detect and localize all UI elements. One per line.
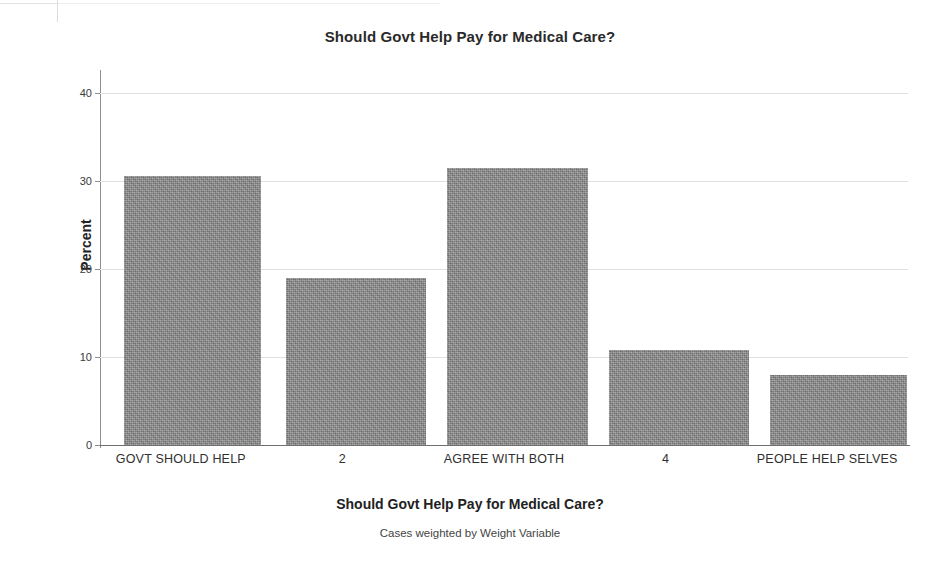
y-tick-mark-40: [95, 93, 100, 94]
y-tick-mark-30: [95, 181, 100, 182]
bar: [609, 350, 750, 445]
bar-chart: Should Govt Help Pay for Medical Care? P…: [0, 0, 940, 563]
x-axis-label: Should Govt Help Pay for Medical Care?: [0, 496, 940, 512]
y-tick-label-0: 0: [52, 439, 92, 451]
chart-footnote: Cases weighted by Weight Variable: [0, 527, 940, 539]
plot-area: Percent 010203040: [100, 75, 908, 445]
x-tick-label: AGREE WITH BOTH: [423, 452, 585, 467]
gridline-40: [100, 93, 908, 94]
y-tick-mark-20: [95, 269, 100, 270]
y-tick-mark-0: [95, 445, 100, 446]
x-tick-label: 2: [262, 452, 424, 467]
bar: [286, 278, 427, 445]
bar: [770, 375, 907, 445]
y-tick-label-10: 10: [52, 351, 92, 363]
y-tick-label-20: 20: [52, 263, 92, 275]
x-axis-line: [100, 445, 910, 446]
chart-title: Should Govt Help Pay for Medical Care?: [0, 28, 940, 45]
x-tick-label: GOVT SHOULD HELP: [100, 452, 262, 467]
bar: [447, 168, 588, 446]
bar: [124, 176, 261, 445]
y-tick-label-40: 40: [52, 87, 92, 99]
y-tick-mark-10: [95, 357, 100, 358]
x-tick-label: PEOPLE HELP SELVES: [746, 452, 908, 467]
y-tick-label-30: 30: [52, 175, 92, 187]
x-tick-label: 4: [585, 452, 747, 467]
